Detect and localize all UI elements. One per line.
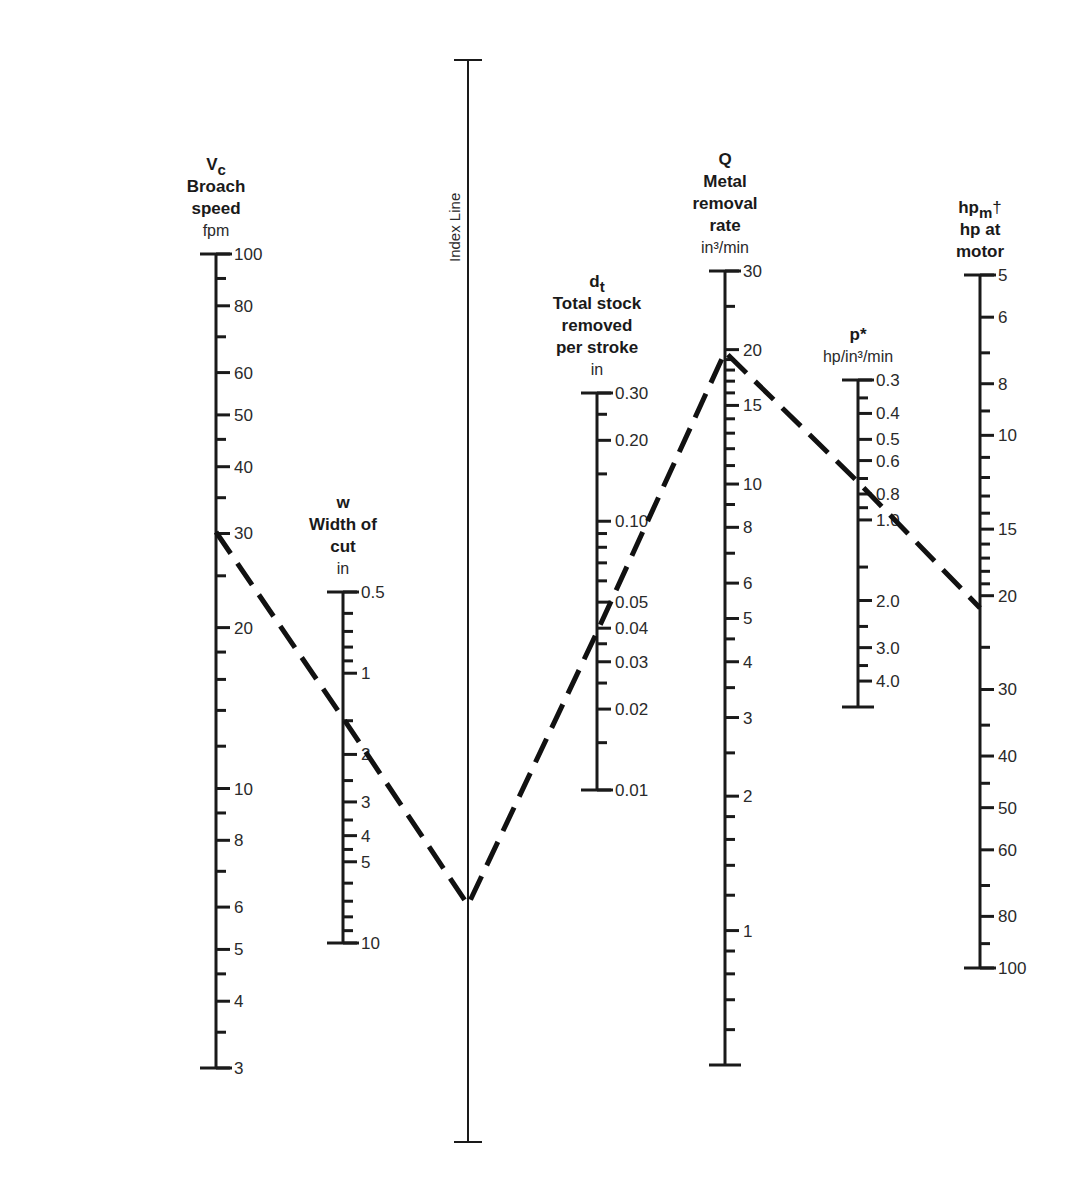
axis-name: Broach	[187, 177, 246, 196]
axes-layer: 10080605040302010865430.51234510Index Li…	[200, 60, 1026, 1142]
tick-label: 3	[234, 1059, 243, 1078]
tick-label: 30	[234, 524, 253, 543]
tick-label: 1	[743, 922, 752, 941]
tick-label: 8	[234, 831, 243, 850]
tick-label: 6	[234, 898, 243, 917]
tick-label: 5	[234, 940, 243, 959]
axis-name: Width of	[309, 515, 377, 534]
axis-title-dt: dtTotal stockremovedper strokein	[553, 272, 642, 378]
tick-label: 40	[234, 458, 253, 477]
tick-label: 60	[998, 841, 1017, 860]
tick-label: 15	[743, 396, 762, 415]
axis-unit: in	[591, 361, 603, 378]
tick-label: 0.20	[615, 431, 648, 450]
axis-title-q: QMetalremovalratein³/min	[692, 150, 757, 256]
tick-label: 60	[234, 364, 253, 383]
axis-p: 0.30.40.50.60.81.02.03.04.0	[842, 371, 900, 707]
tick-label: 1	[361, 664, 370, 683]
axis-hpm: 5681015203040506080100	[964, 266, 1026, 978]
tick-label: 40	[998, 747, 1017, 766]
axis-title-p: p*hp/in³/min	[823, 325, 893, 365]
tick-label: 4	[361, 827, 370, 846]
tick-label: 0.01	[615, 781, 648, 800]
tick-label: 4	[743, 653, 752, 672]
tick-label: 6	[743, 574, 752, 593]
axis-name: removal	[692, 194, 757, 213]
tick-label: 0.02	[615, 700, 648, 719]
tick-label: 2.0	[876, 592, 900, 611]
axis-name: per stroke	[556, 338, 638, 357]
tick-label: 0.3	[876, 371, 900, 390]
axis-unit: fpm	[203, 222, 230, 239]
axis-name: rate	[709, 216, 740, 235]
axis-name: Total stock	[553, 294, 642, 313]
axis-symbol: p*	[850, 325, 867, 344]
tick-label: 0.03	[615, 653, 648, 672]
tick-label: 0.05	[615, 593, 648, 612]
axis-symbol: Vc	[206, 155, 226, 178]
tick-label: 0.30	[615, 384, 648, 403]
axis-symbol: w	[335, 493, 350, 512]
tick-label: 0.5	[361, 583, 385, 602]
tick-label: 80	[234, 297, 253, 316]
tick-label: 4	[234, 992, 243, 1011]
axis-title-vc: VcBroachspeedfpm	[187, 155, 246, 239]
tick-label: 10	[234, 780, 253, 799]
axis-title-hpm: hpm†hp atmotor	[956, 198, 1005, 261]
tick-label: 20	[743, 341, 762, 360]
axis-name: removed	[562, 316, 633, 335]
axis-q: 302015108654321	[709, 262, 762, 1065]
axis-name: Metal	[703, 172, 746, 191]
index-line-label: Index Line	[446, 193, 463, 262]
tick-label: 0.6	[876, 452, 900, 471]
axis-vc: 1008060504030201086543	[200, 245, 262, 1078]
tick-label: 80	[998, 907, 1017, 926]
tick-label: 0.5	[876, 430, 900, 449]
tick-label: 0.4	[876, 404, 900, 423]
tick-label: 30	[998, 680, 1017, 699]
axis-name: hp at	[960, 220, 1001, 239]
tick-label: 0.10	[615, 512, 648, 531]
tick-label: 100	[234, 245, 262, 264]
tick-label: 4.0	[876, 672, 900, 691]
nomograph: 10080605040302010865430.51234510Index Li…	[0, 0, 1092, 1185]
tick-label: 10	[361, 934, 380, 953]
axis-name: speed	[191, 199, 240, 218]
tick-label: 6	[998, 308, 1007, 327]
axis-symbol: hpm†	[958, 198, 1002, 221]
tick-label: 50	[234, 406, 253, 425]
tick-label: 10	[998, 426, 1017, 445]
axis-name: cut	[330, 537, 356, 556]
tick-label: 8	[743, 518, 752, 537]
tick-label: 5	[361, 853, 370, 872]
tick-label: 8	[998, 375, 1007, 394]
tick-label: 2	[743, 787, 752, 806]
tick-label: 3.0	[876, 639, 900, 658]
tick-label: 5	[743, 609, 752, 628]
axis-unit: hp/in³/min	[823, 348, 893, 365]
tick-label: 20	[998, 587, 1017, 606]
axis-name: motor	[956, 242, 1005, 261]
tick-label: 0.04	[615, 619, 648, 638]
tick-label: 20	[234, 619, 253, 638]
tick-label: 5	[998, 266, 1007, 285]
tick-label: 3	[743, 709, 752, 728]
axis-symbol: Q	[718, 150, 731, 169]
axis-symbol: dt	[589, 272, 604, 295]
axis-title-w: wWidth ofcutin	[309, 493, 377, 577]
axis-unit: in³/min	[701, 239, 749, 256]
tick-label: 10	[743, 475, 762, 494]
axis-unit: in	[337, 560, 349, 577]
axis-dt: 0.300.200.100.050.040.030.020.01	[581, 384, 648, 800]
tick-label: 15	[998, 520, 1017, 539]
tick-label: 100	[998, 959, 1026, 978]
tick-label: 3	[361, 793, 370, 812]
tick-label: 50	[998, 799, 1017, 818]
tick-label: 30	[743, 262, 762, 281]
axis-index: Index Line	[446, 60, 482, 1142]
